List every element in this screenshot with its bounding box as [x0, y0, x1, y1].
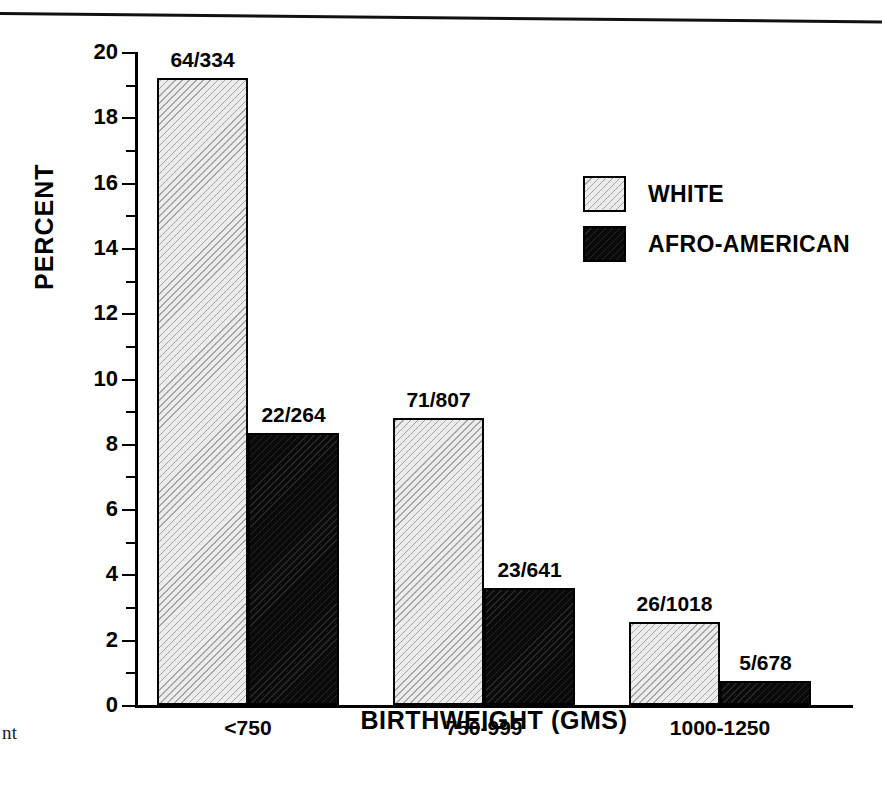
y-tick-minor [126, 215, 135, 217]
y-tick-label: 6 [106, 496, 118, 522]
bar-afro-american-2[interactable] [720, 681, 811, 705]
bar-value-label: 22/264 [261, 403, 325, 427]
y-tick-major [122, 52, 135, 54]
y-tick-minor [126, 346, 135, 348]
x-category-label: <750 [224, 716, 271, 740]
y-tick-label: 8 [106, 431, 118, 457]
plot-area: 02468101214161820 64/33422/26471/80723/6… [135, 52, 853, 705]
legend-swatch-white-icon [583, 176, 626, 212]
y-tick-minor [126, 281, 135, 283]
y-tick-minor [126, 672, 135, 674]
x-category-label: 1000-1250 [670, 716, 770, 740]
chart-legend: WHITE AFRO-AMERICAN [583, 176, 850, 276]
legend-entry-white: WHITE [583, 176, 850, 212]
caption-fragment: nt [2, 722, 17, 744]
bar-value-label: 5/678 [739, 651, 792, 675]
y-tick-major [122, 640, 135, 642]
y-tick-minor [126, 411, 135, 413]
y-tick-major [122, 509, 135, 511]
y-tick-minor [126, 476, 135, 478]
y-tick-label: 4 [106, 561, 118, 587]
y-tick-major [122, 444, 135, 446]
y-axis-line [135, 52, 138, 705]
legend-swatch-afro-american-icon [583, 226, 626, 262]
bar-white-1[interactable] [393, 418, 484, 705]
bar-white-0[interactable] [157, 78, 248, 705]
y-tick-major [122, 248, 135, 250]
bar-value-label: 64/334 [170, 48, 234, 72]
y-tick-label: 12 [94, 300, 118, 326]
y-tick-label: 18 [94, 104, 118, 130]
legend-label-afro-american: AFRO-AMERICAN [648, 231, 850, 258]
bar-afro-american-0[interactable] [248, 433, 339, 705]
y-tick-label: 2 [106, 627, 118, 653]
bar-value-label: 26/1018 [637, 592, 713, 616]
y-tick-minor [126, 150, 135, 152]
y-tick-major [122, 117, 135, 119]
figure-bar-chart: nt PERCENT 02468101214161820 64/33422/26… [0, 0, 882, 805]
y-tick-minor [126, 607, 135, 609]
y-tick-major [122, 705, 135, 707]
y-tick-minor [126, 85, 135, 87]
legend-entry-afro-american: AFRO-AMERICAN [583, 226, 850, 262]
y-tick-major [122, 379, 135, 381]
y-tick-label: 16 [94, 170, 118, 196]
y-tick-label: 20 [94, 39, 118, 65]
y-tick-major [122, 313, 135, 315]
y-tick-major [122, 183, 135, 185]
y-axis-title: PERCENT [30, 164, 59, 290]
y-tick-minor [126, 542, 135, 544]
bar-value-label: 23/641 [497, 558, 561, 582]
bar-value-label: 71/807 [406, 388, 470, 412]
legend-label-white: WHITE [648, 181, 724, 208]
y-tick-label: 0 [106, 692, 118, 718]
y-tick-label: 10 [94, 366, 118, 392]
bar-white-2[interactable] [629, 622, 720, 705]
y-tick-label: 14 [94, 235, 118, 261]
x-axis-title: BIRTHWEIGHT (GMS) [360, 706, 627, 735]
y-tick-major [122, 574, 135, 576]
bar-afro-american-1[interactable] [484, 588, 575, 705]
page-top-rule [0, 12, 882, 23]
